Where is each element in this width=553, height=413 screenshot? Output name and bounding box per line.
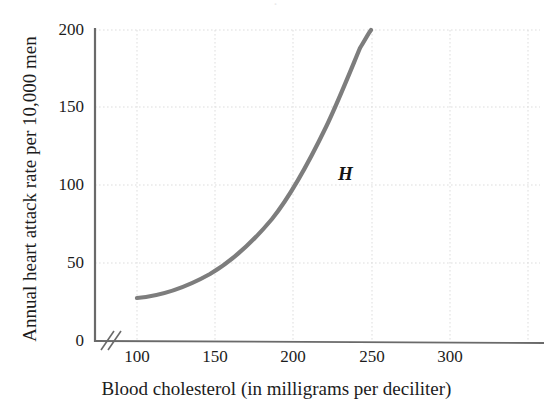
y-tick-label-200: 200 [38, 20, 84, 40]
data-curve-H [137, 30, 371, 298]
x-tick-label-150: 150 [185, 347, 245, 367]
chart-figure: · 200 150 100 [0, 0, 553, 413]
y-tick-label-50: 50 [38, 253, 84, 273]
y-tick-label-100: 100 [38, 175, 84, 195]
x-tick-label-300: 300 [420, 347, 480, 367]
x-tick-label-250: 250 [342, 347, 402, 367]
curve-label-H: H [338, 163, 353, 185]
x-tick-label-100: 100 [107, 347, 167, 367]
y-axis-title: Annual heart attack rate per 10,000 men [19, 24, 41, 354]
y-tick-label-150: 150 [38, 97, 84, 117]
x-axis-title: Blood cholesterol (in milligrams per dec… [0, 378, 553, 400]
x-axis-line [95, 341, 544, 343]
y-tick-label-0: 0 [38, 331, 84, 351]
x-tick-label-200: 200 [263, 347, 323, 367]
